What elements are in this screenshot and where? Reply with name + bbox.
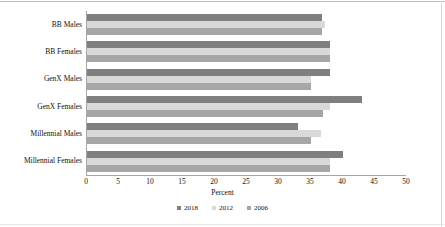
x-tick-label: 10	[140, 177, 160, 186]
category-label: GenX Males	[44, 74, 82, 83]
chart-legend: 201820122006	[0, 204, 445, 212]
bar-2012	[87, 158, 330, 165]
x-tick-label: 15	[172, 177, 192, 186]
x-tick-label: 40	[332, 177, 352, 186]
x-tick-label: 50	[396, 177, 416, 186]
legend-swatch-icon	[247, 206, 251, 210]
bar-2006	[87, 165, 330, 172]
bar-group	[87, 148, 406, 175]
bar-2018	[87, 96, 362, 103]
x-axis-title: Percent	[0, 188, 445, 197]
bar-2012	[87, 130, 321, 137]
legend-swatch-icon	[177, 206, 181, 210]
bar-2018	[87, 69, 330, 76]
category-label: GenX Females	[37, 102, 82, 111]
legend-swatch-icon	[212, 206, 216, 210]
x-tick-label: 0	[76, 177, 96, 186]
chart-page: BB MalesBB FemalesGenX MalesGenX Females…	[0, 0, 445, 227]
bar-group	[87, 93, 406, 120]
x-tick-label: 30	[268, 177, 288, 186]
x-tick-label: 45	[364, 177, 384, 186]
x-tick-label: 20	[204, 177, 224, 186]
bar-group	[87, 38, 406, 65]
legend-item-2018[interactable]: 2018	[177, 204, 198, 212]
bar-2006	[87, 137, 311, 144]
bar-group	[87, 66, 406, 93]
category-label: BB Males	[52, 20, 82, 29]
bar-2018	[87, 14, 322, 21]
legend-label: 2012	[219, 204, 233, 212]
figure-top-rule	[0, 1, 445, 2]
legend-label: 2018	[184, 204, 198, 212]
bar-2018	[87, 151, 343, 158]
bar-2012	[87, 21, 325, 28]
bar-2012	[87, 103, 330, 110]
bar-2006	[87, 83, 311, 90]
x-axis-line	[86, 175, 406, 176]
x-tick-label: 35	[300, 177, 320, 186]
bar-2006	[87, 110, 323, 117]
bar-2012	[87, 48, 330, 55]
bar-group	[87, 11, 406, 38]
legend-label: 2006	[254, 204, 268, 212]
figure-bottom-rule	[0, 224, 445, 225]
bar-2006	[87, 28, 322, 35]
bar-2006	[87, 55, 330, 62]
category-label: BB Females	[45, 47, 82, 56]
bar-group	[87, 120, 406, 147]
legend-item-2006[interactable]: 2006	[247, 204, 268, 212]
x-tick-label: 25	[236, 177, 256, 186]
legend-item-2012[interactable]: 2012	[212, 204, 233, 212]
bar-2012	[87, 76, 311, 83]
category-label: Millennial Females	[24, 156, 82, 165]
bar-2018	[87, 123, 298, 130]
category-label: Millennial Males	[31, 129, 82, 138]
x-tick-label: 5	[108, 177, 128, 186]
bar-2018	[87, 41, 330, 48]
